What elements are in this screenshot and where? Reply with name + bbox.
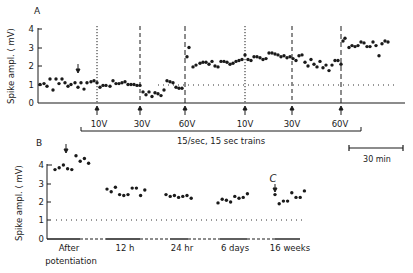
svg-text:potentiation: potentiation — [45, 256, 97, 266]
data-point — [181, 195, 184, 198]
data-point — [343, 37, 346, 40]
panel-b-ylabel: Spike ampl. ( mV) — [14, 165, 24, 241]
svg-text:10V: 10V — [237, 119, 254, 129]
data-point — [201, 61, 204, 64]
data-point — [347, 46, 350, 49]
data-point — [101, 84, 104, 87]
data-point — [270, 51, 273, 54]
data-point — [350, 44, 353, 47]
data-point — [273, 52, 276, 55]
data-point — [276, 53, 279, 56]
data-point — [377, 54, 380, 57]
data-point — [237, 59, 240, 62]
data-point — [194, 63, 197, 66]
scale-bar — [349, 145, 403, 151]
data-point — [150, 95, 153, 98]
data-point — [225, 199, 228, 202]
data-point — [117, 82, 120, 85]
svg-text:30V: 30V — [134, 119, 151, 129]
data-point — [118, 193, 121, 196]
up-arrow-icon — [290, 106, 294, 115]
data-point — [303, 189, 306, 192]
data-point — [114, 186, 117, 189]
data-point — [207, 62, 210, 65]
data-point — [356, 44, 359, 47]
data-point — [273, 193, 276, 196]
data-point — [216, 65, 219, 68]
data-point — [288, 55, 291, 58]
svg-text:6 days: 6 days — [221, 243, 250, 253]
data-point — [362, 41, 365, 44]
data-point — [51, 88, 54, 91]
panel-a-data-points — [38, 37, 389, 99]
data-point — [333, 59, 336, 62]
train-bracket — [81, 127, 361, 131]
svg-text:2: 2 — [39, 197, 44, 207]
data-point — [246, 192, 249, 195]
data-point — [221, 198, 224, 201]
data-point — [79, 81, 82, 84]
data-point — [173, 194, 176, 197]
svg-text:10V: 10V — [91, 119, 108, 129]
data-point — [187, 46, 190, 49]
svg-text:0: 0 — [39, 234, 44, 244]
data-point — [191, 65, 194, 68]
data-point — [66, 167, 69, 170]
up-arrow-icon — [138, 106, 142, 115]
data-point — [252, 55, 255, 58]
scale-bar-label: 30 min — [363, 155, 391, 164]
data-point — [82, 87, 85, 90]
data-point — [58, 166, 61, 169]
data-point — [321, 66, 324, 69]
data-point — [233, 195, 236, 198]
svg-text:2: 2 — [29, 61, 34, 71]
data-point — [294, 59, 297, 62]
data-point — [73, 81, 76, 84]
panel-a-yticks: 0 1 2 3 4 — [29, 24, 34, 108]
down-arrow-icon — [273, 184, 277, 192]
data-point — [132, 83, 135, 86]
figure: A Spike ampl. ( mV) 0 1 2 3 4 10V 30V — [0, 0, 413, 273]
data-point — [219, 60, 222, 63]
data-point — [267, 51, 270, 54]
data-point — [153, 91, 156, 94]
svg-text:After: After — [59, 243, 80, 253]
data-point — [255, 55, 258, 58]
data-point — [303, 61, 306, 64]
data-point — [74, 154, 77, 157]
data-point — [126, 193, 129, 196]
data-point — [89, 80, 92, 83]
svg-text:0: 0 — [29, 98, 34, 108]
panel-b-data-points — [53, 154, 306, 205]
data-point — [76, 86, 79, 89]
data-point — [168, 80, 171, 83]
panel-b-category-labels: After potentiation 12 h 24 hr 6 days 16 … — [45, 243, 311, 266]
data-point — [83, 157, 86, 160]
data-point — [279, 55, 282, 58]
data-point — [222, 60, 225, 63]
data-point — [135, 84, 138, 87]
panel-b-yaxis — [47, 164, 52, 239]
data-point — [120, 81, 123, 84]
data-point — [213, 64, 216, 67]
panel-b-label: B — [36, 138, 42, 148]
down-arrow-icon — [76, 64, 80, 73]
data-point — [79, 160, 82, 163]
data-point — [139, 194, 142, 197]
data-point — [365, 45, 368, 48]
marker-c-label: C — [270, 173, 277, 184]
data-point — [104, 84, 107, 87]
data-point — [126, 83, 129, 86]
down-arrow-icon — [64, 144, 68, 153]
data-point — [243, 53, 246, 56]
data-point — [324, 63, 327, 66]
data-point — [114, 82, 117, 85]
data-point — [177, 87, 180, 90]
up-arrow-icon — [243, 106, 247, 115]
data-point — [60, 77, 63, 80]
data-point — [327, 69, 330, 72]
data-point — [336, 59, 339, 62]
data-point — [299, 196, 302, 199]
data-point — [264, 57, 267, 60]
data-point — [258, 56, 261, 59]
